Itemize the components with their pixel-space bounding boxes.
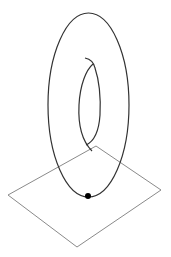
- diagram-canvas: [0, 0, 171, 257]
- torus-outer-loop: [48, 13, 129, 197]
- torus-inner-loop: [79, 58, 100, 151]
- tangent-point: [85, 193, 91, 199]
